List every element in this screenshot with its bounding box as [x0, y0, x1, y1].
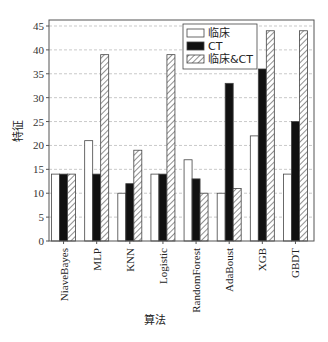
bar	[200, 193, 208, 241]
bar	[283, 174, 291, 241]
bar	[184, 160, 192, 241]
bar	[68, 174, 76, 241]
legend-label: 临床&CT	[208, 52, 253, 66]
bar	[159, 174, 167, 241]
x-tick-label: GBDT	[289, 248, 301, 278]
bar	[60, 174, 68, 241]
x-tick-label: KNN	[124, 248, 136, 272]
x-tick-label: AdaBoust	[223, 248, 235, 292]
bar	[93, 174, 101, 241]
bar	[101, 55, 109, 241]
legend: 临床CT临床&CT	[183, 24, 257, 69]
bar-chart: 051015202530354045 NiaveBayesMLPKNNLogis…	[0, 0, 328, 342]
bar	[126, 184, 134, 241]
y-tick-label: 25	[33, 116, 45, 128]
y-tick-label: 30	[33, 92, 45, 104]
x-tick-label: NiaveBayes	[58, 248, 70, 301]
x-tick-label: Logistic	[157, 248, 169, 284]
bar	[250, 136, 258, 241]
bar	[225, 83, 233, 241]
x-axis-label: 算法	[144, 313, 166, 327]
y-tick-label: 15	[33, 163, 45, 175]
bar	[167, 55, 175, 241]
y-tick-label: 5	[39, 211, 45, 223]
x-tick-label: RandomForest	[190, 248, 202, 313]
legend-swatch	[187, 29, 204, 37]
x-tick-label: XGB	[256, 248, 268, 271]
legend-swatch	[187, 42, 204, 50]
x-tick-label: MLP	[91, 248, 103, 271]
y-tick-label: 10	[33, 187, 45, 199]
y-axis-label: 特征	[11, 120, 25, 142]
bar	[233, 188, 241, 241]
y-tick-label: 20	[33, 139, 45, 151]
y-tick-label: 40	[33, 44, 45, 56]
y-tick-label: 45	[33, 20, 45, 32]
x-axis-ticks: NiaveBayesMLPKNNLogisticRandomForestAdaB…	[58, 241, 302, 313]
y-tick-label: 0	[39, 235, 45, 247]
bar	[85, 141, 93, 241]
bar	[192, 179, 200, 241]
bar	[266, 31, 274, 241]
bar	[118, 193, 126, 241]
bar	[52, 174, 60, 241]
legend-label: 临床	[208, 26, 230, 40]
legend-swatch	[187, 55, 204, 63]
bar	[134, 150, 142, 241]
bar	[151, 174, 159, 241]
y-tick-label: 35	[33, 68, 45, 80]
bars	[52, 31, 308, 241]
bar	[299, 31, 307, 241]
bar	[291, 122, 299, 241]
legend-label: CT	[208, 40, 223, 53]
bar	[258, 69, 266, 241]
bar	[217, 193, 225, 241]
y-axis-ticks: 051015202530354045	[33, 20, 49, 247]
